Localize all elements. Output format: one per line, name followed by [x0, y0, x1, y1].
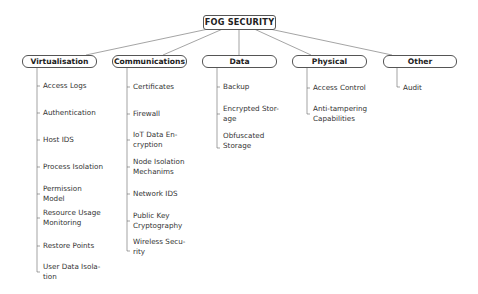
leaf-authentication: Authentication: [43, 108, 111, 118]
root-node-fog-security: FOG SECURITY: [203, 15, 276, 30]
leaf-host-ids: Host IDS: [43, 135, 111, 145]
leaf-public-key-cryptography: Public Key Cryptography: [133, 211, 201, 231]
leaf-permission-model: Permission Model: [43, 184, 111, 204]
leaf-resource-usage-monitoring: Resource Usage Monitoring: [43, 208, 111, 228]
category-virtualisation: Virtualisation: [22, 55, 97, 68]
leaf-audit: Audit: [403, 83, 471, 93]
leaf-certificates: Certificates: [133, 82, 201, 92]
leaf-network-ids: Network IDS: [133, 189, 201, 199]
leaf-user-data-isolation: User Data Isola- tion: [43, 262, 111, 282]
category-physical: Physical: [292, 55, 367, 68]
leaf-obfuscated-storage: Obfuscated Storage: [223, 131, 291, 151]
leaf-access-logs: Access Logs: [43, 81, 111, 91]
category-data: Data: [202, 55, 277, 68]
leaf-encrypted-storage: Encrypted Stor- age: [223, 104, 291, 124]
leaf-iot-data-encryption: IoT Data En- cryption: [133, 130, 201, 150]
category-communications: Communications: [112, 55, 187, 68]
leaf-node-isolation-mechanisms: Node Isolation Mechanims: [133, 157, 201, 177]
leaf-firewall: Firewall: [133, 109, 201, 119]
leaf-wireless-security: Wireless Secu- rity: [133, 237, 201, 257]
leaf-anti-tampering-capabilities: Anti-tampering Capabilities: [313, 104, 381, 124]
leaf-access-control: Access Control: [313, 83, 381, 93]
category-other: Other: [383, 55, 457, 68]
leaf-process-isolation: Process Isolation: [43, 162, 111, 172]
leaf-backup: Backup: [223, 82, 291, 92]
leaf-restore-points: Restore Points: [43, 241, 111, 251]
